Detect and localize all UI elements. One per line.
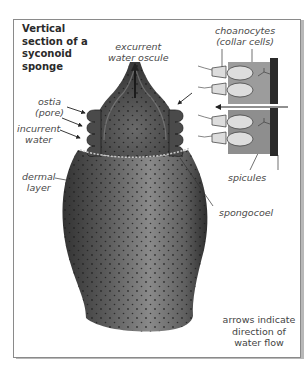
label-incurrent-water: incurrent water [17, 123, 60, 145]
label-spicules: spicules [228, 172, 266, 183]
label-line: excurrent [108, 41, 169, 52]
label-line: (pore) [35, 107, 64, 118]
title-line: sponge [22, 61, 88, 74]
title-line: section of a [22, 36, 88, 49]
label-line: choanocytes [215, 25, 275, 36]
title-line: syconoid [22, 48, 88, 61]
label-ostia: ostia (pore) [35, 96, 64, 118]
flow-direction-note: arrows indicate direction of water flow [220, 314, 298, 349]
choanocyte-inset [198, 58, 288, 156]
label-dermal-layer: dermal layer [22, 171, 56, 193]
label-line: layer [22, 182, 56, 193]
label-spongocoel: spongocoel [219, 207, 273, 218]
sponge-upper-chamber [80, 62, 190, 158]
label-line: incurrent [17, 123, 60, 134]
label-line: (collar cells) [215, 36, 275, 47]
diagram-title: Vertical section of a syconoid sponge [22, 23, 88, 73]
title-line: Vertical [22, 23, 88, 36]
label-line: ostia [35, 96, 64, 107]
label-excurrent-oscule: excurrent water oscule [108, 41, 169, 63]
label-line: water oscule [108, 52, 169, 63]
label-choanocytes: choanocytes (collar cells) [215, 25, 275, 47]
sponge-body [63, 150, 208, 332]
label-line: dermal [22, 171, 56, 182]
label-line: water [17, 134, 60, 145]
